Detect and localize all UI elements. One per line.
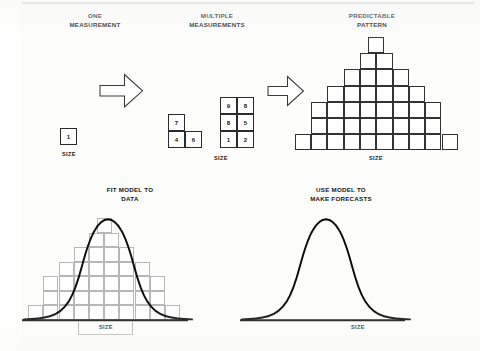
fit-histogram-block bbox=[43, 276, 58, 291]
fit-histogram-block bbox=[59, 262, 74, 277]
measurement-cell: 1 bbox=[60, 128, 77, 145]
fit-histogram-block bbox=[104, 305, 119, 320]
fit-histogram-block bbox=[104, 276, 119, 291]
fit-histogram-block bbox=[119, 305, 134, 320]
caption-predictable-pattern: PREDICTABLE PATTERN bbox=[322, 12, 422, 30]
fit-histogram-block bbox=[59, 305, 74, 320]
pattern-block bbox=[425, 118, 441, 134]
fit-histogram-block bbox=[43, 305, 58, 320]
pattern-block bbox=[376, 86, 392, 102]
pattern-block bbox=[327, 86, 343, 102]
pattern-block bbox=[360, 118, 376, 134]
pattern-block bbox=[409, 86, 425, 102]
axis-label-size-multiple: SIZE bbox=[200, 155, 242, 161]
pattern-block bbox=[360, 69, 376, 85]
scan-left-margin bbox=[0, 0, 22, 351]
measurement-cell: 1 bbox=[220, 131, 237, 148]
pattern-block bbox=[376, 102, 392, 118]
arrow-one-to-multiple-icon bbox=[100, 75, 143, 108]
pattern-block bbox=[368, 37, 384, 53]
axis-label-size-fit: SIZE bbox=[85, 324, 127, 330]
fit-histogram-block bbox=[74, 247, 89, 262]
fit-histogram-block bbox=[135, 291, 150, 306]
fit-histogram-block bbox=[43, 291, 58, 306]
pattern-block bbox=[425, 134, 441, 150]
pattern-block bbox=[311, 118, 327, 134]
caption-fit-model-to-data: FIT MODEL TO DATA bbox=[80, 186, 180, 204]
fit-histogram-block bbox=[104, 233, 119, 248]
pattern-block bbox=[425, 102, 441, 118]
pattern-block bbox=[327, 102, 343, 118]
arrow-multiple-to-pattern-icon bbox=[268, 77, 304, 106]
fit-histogram-block bbox=[89, 276, 104, 291]
pattern-block bbox=[409, 102, 425, 118]
axis-label-size-forecast: SIZE bbox=[337, 324, 379, 330]
fit-histogram-block bbox=[119, 262, 134, 277]
measurement-cell: 7 bbox=[168, 114, 185, 131]
pattern-block bbox=[393, 102, 409, 118]
fit-histogram-block bbox=[59, 276, 74, 291]
pattern-block bbox=[442, 134, 458, 150]
scan-top-rule bbox=[22, 2, 474, 4]
fit-histogram-block bbox=[104, 247, 119, 262]
pattern-block bbox=[393, 118, 409, 134]
pattern-block bbox=[344, 102, 360, 118]
fit-histogram-block bbox=[165, 305, 180, 320]
pattern-block bbox=[311, 102, 327, 118]
fit-histogram-block bbox=[74, 276, 89, 291]
fit-histogram-block bbox=[59, 291, 74, 306]
measurement-cell: 5 bbox=[237, 114, 254, 131]
measurement-cell: 9 bbox=[220, 97, 237, 114]
pattern-block bbox=[344, 86, 360, 102]
pattern-block bbox=[344, 134, 360, 150]
measurement-cell: 6 bbox=[185, 131, 202, 148]
fit-histogram-block bbox=[74, 305, 89, 320]
fit-histogram-block bbox=[150, 305, 165, 320]
axis-label-size-pattern: SIZE bbox=[355, 155, 397, 161]
fit-histogram-block bbox=[89, 247, 104, 262]
pattern-block bbox=[295, 134, 311, 150]
pattern-block bbox=[344, 118, 360, 134]
caption-one-measurement: ONE MEASUREMENT bbox=[45, 12, 145, 30]
pattern-block bbox=[409, 118, 425, 134]
fit-histogram-block bbox=[119, 247, 134, 262]
fit-histogram-block bbox=[150, 276, 165, 291]
caption-multiple-measurements: MULTIPLE MEASUREMENTS bbox=[162, 12, 272, 30]
pattern-block bbox=[360, 102, 376, 118]
measurement-cell: 8 bbox=[220, 114, 237, 131]
fit-histogram-block bbox=[119, 276, 134, 291]
measurement-cell: 2 bbox=[237, 131, 254, 148]
fit-histogram-block bbox=[150, 291, 165, 306]
axis-label-size-one: SIZE bbox=[48, 151, 90, 157]
use-model-chart bbox=[240, 219, 410, 320]
pattern-block bbox=[376, 134, 392, 150]
fit-histogram-block bbox=[74, 291, 89, 306]
fit-histogram-block bbox=[89, 233, 104, 248]
pattern-block bbox=[360, 53, 376, 69]
pattern-block bbox=[327, 134, 343, 150]
measurement-cell: 8 bbox=[237, 97, 254, 114]
forecast-normal-curve bbox=[242, 219, 410, 319]
fit-histogram-block bbox=[135, 262, 150, 277]
pattern-block bbox=[376, 69, 392, 85]
fit-histogram-block bbox=[89, 305, 104, 320]
pattern-block bbox=[409, 134, 425, 150]
fit-histogram-block bbox=[89, 291, 104, 306]
pattern-block bbox=[360, 86, 376, 102]
fit-histogram-block bbox=[104, 291, 119, 306]
pattern-block bbox=[311, 134, 327, 150]
fit-histogram-block bbox=[119, 291, 134, 306]
pattern-block bbox=[376, 118, 392, 134]
caption-use-model-to-make-forecasts: USE MODEL TO MAKE FORECASTS bbox=[285, 186, 397, 204]
measurement-cell: 4 bbox=[168, 131, 185, 148]
pattern-block bbox=[344, 69, 360, 85]
pattern-block bbox=[327, 118, 343, 134]
pattern-block bbox=[393, 69, 409, 85]
fit-histogram-block bbox=[135, 276, 150, 291]
fit-histogram-block bbox=[135, 305, 150, 320]
fit-histogram-block bbox=[89, 262, 104, 277]
pattern-block bbox=[393, 134, 409, 150]
fit-histogram-block bbox=[97, 218, 112, 233]
fit-histogram-block bbox=[74, 262, 89, 277]
diagram-canvas: ONE MEASUREMENT MULTIPLE MEASUREMENTS PR… bbox=[0, 0, 480, 351]
